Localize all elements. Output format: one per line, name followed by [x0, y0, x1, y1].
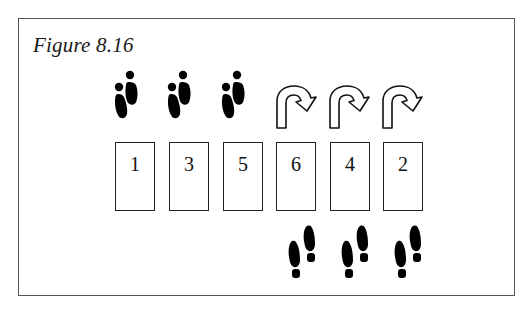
u-turn-arrow-icon	[275, 85, 319, 130]
footprints-forward-icon	[220, 70, 254, 130]
card-1: 1	[115, 142, 155, 211]
footprints-backward-icon	[340, 224, 374, 284]
figure-frame	[18, 18, 515, 296]
footprints-backward-icon	[287, 224, 321, 284]
u-turn-arrow-icon	[381, 85, 425, 130]
u-turn-arrow-icon	[328, 85, 372, 130]
card-3: 3	[169, 142, 209, 211]
card-2: 2	[383, 142, 423, 211]
card-6: 6	[276, 142, 316, 211]
card-5: 5	[223, 142, 263, 211]
card-4: 4	[330, 142, 370, 211]
footprints-forward-icon	[166, 70, 200, 130]
footprints-forward-icon	[113, 70, 147, 130]
footprints-backward-icon	[393, 224, 427, 284]
figure-title: Figure 8.16	[33, 33, 134, 58]
